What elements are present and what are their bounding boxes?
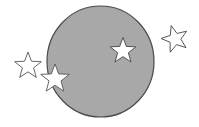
circle-stars-diagram (0, 0, 199, 127)
star-outside-left-star-icon (15, 52, 42, 77)
gray-circle (47, 6, 154, 117)
figure-canvas (0, 0, 199, 127)
star-outside-right-star-icon (158, 24, 192, 57)
